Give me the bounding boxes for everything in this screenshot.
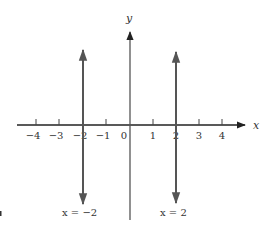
tick-label: 4 <box>219 130 225 141</box>
tick-label: −1 <box>96 130 111 141</box>
tick-label: 1 <box>150 130 156 141</box>
tick-label: 3 <box>196 130 202 141</box>
y-axis-label: y <box>125 12 133 25</box>
x-tick-labels: −4 −3 −2 −1 0 1 2 3 4 <box>26 130 226 141</box>
line-x-neg2-label: x = −2 <box>62 207 97 218</box>
tick-label: −2 <box>73 130 88 141</box>
coordinate-plane: x y −4 −3 −2 −1 0 1 2 3 4 x = −2 x = 2 <box>0 0 270 230</box>
tick-label: −4 <box>26 130 41 141</box>
tick-label: −3 <box>49 130 64 141</box>
x-axis-label: x <box>253 119 260 132</box>
line-x-2-label: x = 2 <box>160 207 187 218</box>
tick-label: 0 <box>121 130 127 141</box>
x-ticks <box>36 119 222 125</box>
edge-mark <box>0 211 2 216</box>
